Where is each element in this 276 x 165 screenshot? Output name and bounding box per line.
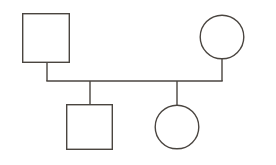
node-son-male-square[interactable] [67, 105, 113, 150]
node-father-male-square[interactable] [23, 14, 70, 63]
pedigree-diagram [0, 0, 276, 165]
node-daughter-female-circle[interactable] [155, 105, 199, 149]
pedigree-svg-canvas [0, 0, 276, 165]
generation-1-group [23, 14, 244, 63]
node-mother-female-circle[interactable] [200, 15, 244, 59]
connector-lines-group [46, 59, 222, 105]
generation-2-group [67, 105, 199, 150]
